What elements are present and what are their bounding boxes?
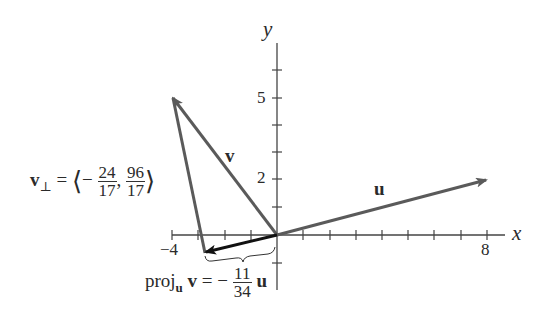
v-perp-symbol: v bbox=[30, 169, 40, 190]
x-axis-label: x bbox=[512, 221, 521, 246]
y-axis bbox=[272, 43, 282, 290]
comma: , bbox=[117, 169, 122, 190]
x-tick-label-neg4: −4 bbox=[160, 240, 178, 260]
x-tick-label-8: 8 bbox=[481, 240, 490, 260]
proj-vector-u: u bbox=[257, 270, 268, 291]
equals-sign: = bbox=[56, 169, 67, 190]
fraction-96-17: 9617 bbox=[126, 164, 145, 199]
perp-subscript: ⊥ bbox=[40, 179, 52, 194]
right-angle-bracket: ⟩ bbox=[145, 167, 155, 196]
vector-v-label: v bbox=[225, 145, 235, 167]
proj-text: proj bbox=[145, 270, 176, 291]
y-tick-label-5: 5 bbox=[257, 88, 266, 108]
y-axis-label: y bbox=[263, 17, 272, 42]
proj-vector-v: v bbox=[188, 270, 198, 291]
equals-sign: = bbox=[202, 270, 213, 291]
y-tick-label-2: 2 bbox=[257, 168, 266, 188]
left-angle-bracket: ⟨ bbox=[72, 167, 82, 196]
vector-u-label: u bbox=[374, 178, 385, 200]
projection-annotation: proju v = − 1134 u bbox=[145, 265, 267, 300]
fraction-24-17: 2417 bbox=[98, 164, 117, 199]
minus-sign: − bbox=[217, 270, 228, 291]
proj-subscript-u: u bbox=[176, 280, 183, 295]
fraction-11-34: 1134 bbox=[233, 265, 252, 300]
vector-projection bbox=[206, 235, 277, 252]
minus-sign: − bbox=[82, 169, 93, 190]
v-perp-annotation: v⊥ = ⟨− 2417, 9617⟩ bbox=[30, 164, 155, 199]
x-axis bbox=[172, 230, 505, 240]
